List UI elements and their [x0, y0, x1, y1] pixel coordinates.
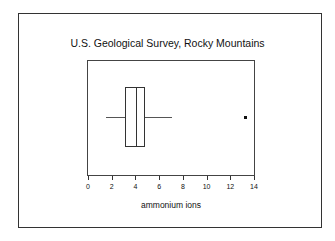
- x-tick-label: 0: [86, 183, 90, 190]
- x-tick: [183, 176, 184, 180]
- x-tick: [230, 176, 231, 180]
- median-line: [136, 87, 137, 147]
- chart-title: U.S. Geological Survey, Rocky Mountains: [0, 37, 335, 49]
- x-tick-label: 14: [250, 183, 258, 190]
- outlier-point: [244, 116, 247, 119]
- x-tick: [207, 176, 208, 180]
- x-tick: [112, 176, 113, 180]
- x-tick-label: 10: [203, 183, 211, 190]
- x-tick: [135, 176, 136, 180]
- plot-area: [87, 60, 255, 176]
- x-tick: [88, 176, 89, 180]
- x-tick-label: 8: [181, 183, 185, 190]
- x-tick-label: 2: [110, 183, 114, 190]
- x-tick: [254, 176, 255, 180]
- x-axis-label: ammonium ions: [141, 200, 201, 210]
- x-tick-label: 12: [226, 183, 234, 190]
- x-tick-label: 6: [157, 183, 161, 190]
- x-tick-label: 4: [133, 183, 137, 190]
- x-tick: [159, 176, 160, 180]
- iqr-box: [125, 87, 145, 147]
